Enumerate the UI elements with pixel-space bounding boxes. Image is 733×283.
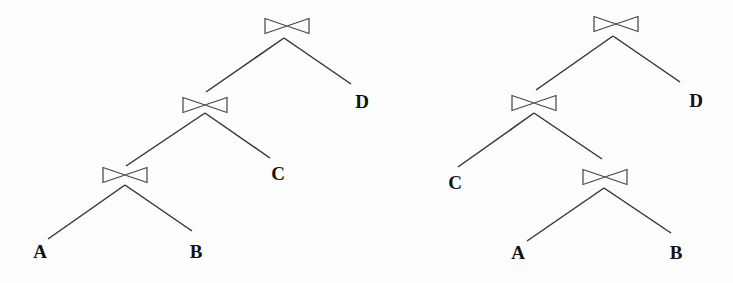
tree-edge [125, 185, 192, 231]
relation-label-b: B [670, 242, 683, 263]
bushy-tree: DCAB [448, 17, 703, 264]
tree-edge [534, 113, 602, 159]
relation-label-a: A [511, 242, 525, 263]
relation-label-d: D [355, 91, 369, 112]
bowtie-join-icon [594, 17, 638, 32]
bowtie-join-icon [103, 168, 147, 183]
tree-edge [206, 38, 284, 92]
tree-edge [536, 36, 613, 90]
left-deep-tree: DCAB [33, 19, 369, 263]
tree-edge [527, 188, 604, 241]
relation-label-d: D [689, 90, 703, 111]
bowtie-join-icon [512, 96, 556, 111]
tree-edge [126, 113, 205, 166]
bowtie-join-icon [183, 98, 227, 113]
relation-label-b: B [190, 241, 203, 262]
tree-edge [205, 113, 270, 158]
join-trees-diagram: DCABDCAB [0, 0, 733, 283]
tree-edge [458, 113, 534, 167]
tree-edge [48, 185, 125, 239]
tree-edge [284, 38, 351, 84]
bowtie-join-icon [265, 19, 309, 34]
bowtie-join-icon [583, 170, 627, 185]
tree-edge [604, 188, 671, 233]
relation-label-c: C [448, 172, 462, 193]
relation-label-a: A [33, 241, 47, 262]
tree-edge [613, 36, 680, 82]
relation-label-c: C [271, 163, 285, 184]
